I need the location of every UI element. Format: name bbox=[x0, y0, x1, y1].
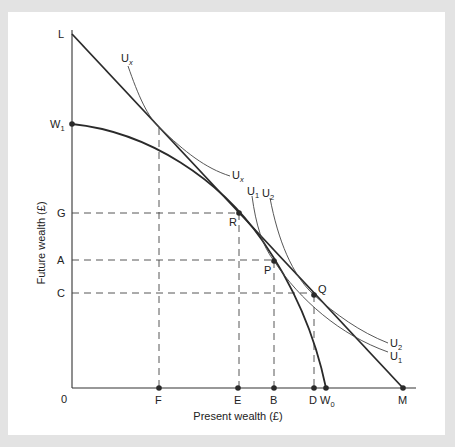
point-B bbox=[271, 385, 277, 391]
production-frontier bbox=[72, 124, 326, 388]
label-C: C bbox=[57, 287, 65, 299]
label-R: R bbox=[229, 216, 237, 228]
point-D bbox=[311, 385, 317, 391]
label-G: G bbox=[57, 207, 66, 219]
label-L: L bbox=[58, 28, 64, 40]
intertemporal-choice-diagram: L W1 G A C 0 F E B D W0 M R P Q Ux Ux U1… bbox=[0, 0, 455, 447]
label-W0: W0 bbox=[320, 394, 335, 409]
label-M: M bbox=[398, 394, 407, 406]
point-W0 bbox=[323, 385, 329, 391]
label-U2-top: U2 bbox=[262, 187, 274, 202]
y-axis-title: Future wealth (£) bbox=[35, 201, 47, 284]
point-M bbox=[400, 385, 406, 391]
label-A: A bbox=[57, 254, 65, 266]
label-origin: 0 bbox=[61, 393, 67, 405]
indifference-curve-U2 bbox=[270, 198, 388, 343]
point-E bbox=[235, 385, 241, 391]
indifference-curve-Ux bbox=[128, 66, 230, 176]
label-Ux-top: Ux bbox=[121, 52, 133, 67]
point-F bbox=[156, 385, 162, 391]
label-Q: Q bbox=[318, 283, 327, 295]
label-W1: W1 bbox=[50, 118, 65, 133]
label-E: E bbox=[234, 394, 241, 406]
x-axis-title: Present wealth (£) bbox=[193, 410, 282, 422]
label-P: P bbox=[264, 264, 271, 276]
label-F: F bbox=[155, 394, 162, 406]
label-Ux-mid: Ux bbox=[232, 169, 244, 184]
label-U1-top: U1 bbox=[247, 185, 259, 200]
indifference-curve-U1 bbox=[252, 196, 388, 352]
point-R bbox=[236, 210, 242, 216]
point-Q bbox=[311, 292, 317, 298]
label-D: D bbox=[309, 394, 317, 406]
point-W1 bbox=[69, 121, 75, 127]
point-P bbox=[271, 258, 277, 264]
label-U1-right: U1 bbox=[390, 350, 402, 365]
label-B: B bbox=[270, 394, 277, 406]
